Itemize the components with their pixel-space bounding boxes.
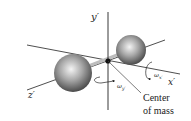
right-sphere	[116, 35, 146, 65]
x-axis-label: x′	[168, 77, 175, 87]
center-of-mass-label-line2: of mass	[143, 105, 174, 116]
diagram-canvas: y′ z′ x′ ωy′ ωx′ Center of mass	[0, 0, 191, 121]
dumbbell-diagram: y′ z′ x′ ωy′ ωx′ Center of mass	[0, 0, 191, 121]
omega-x-label: ωx′	[154, 71, 162, 80]
left-sphere	[54, 54, 92, 92]
omega-y-label: ωy′	[117, 82, 125, 91]
y-axis-label: y′	[90, 11, 100, 22]
z-axis-label: z′	[27, 90, 35, 100]
rotation-arrow-y-icon	[94, 77, 114, 83]
center-of-mass-label-line1: Center	[143, 92, 170, 103]
rotation-arrow-x-icon	[146, 62, 152, 79]
